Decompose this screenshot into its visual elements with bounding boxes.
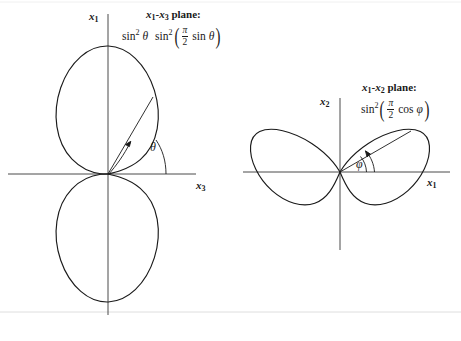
right-horizontal-axis-label: x1	[427, 177, 437, 190]
right-panel-formula: sin2(π2cosφ)	[361, 99, 431, 120]
left-radius-vector	[108, 97, 153, 174]
left-angle-arrow-arc	[109, 142, 131, 174]
close-paren-icon: )	[216, 27, 221, 47]
pi-over-two-fraction: π2	[387, 99, 394, 120]
radiation-pattern-figure: x1 x3 x1-x3 plane: sin2θsin2(π2sinθ) θ x…	[0, 0, 461, 341]
left-horizontal-axis-label: x3	[196, 180, 206, 193]
open-paren-icon: (	[174, 27, 179, 47]
left-lower-lobe	[56, 174, 158, 302]
left-vertical-axis-label: x1	[89, 11, 99, 24]
figure-canvas	[0, 0, 461, 341]
left-upper-lobe	[56, 46, 158, 174]
right-panel-group	[243, 98, 450, 250]
left-panel-formula: sin2θsin2(π2sinθ)	[122, 26, 222, 47]
left-panel-caption: x1-x3 plane:	[146, 9, 201, 22]
right-radius-vector	[340, 131, 411, 172]
close-paren-icon: )	[424, 100, 429, 120]
pi-over-two-fraction: π2	[182, 26, 189, 47]
left-theta-arc	[156, 140, 166, 174]
right-panel-caption: x1-x2 plane:	[362, 82, 417, 95]
formula-sin-2: sin	[155, 31, 168, 43]
left-theta-label: θ	[150, 141, 156, 153]
formula-sin-1: sin	[361, 104, 374, 116]
formula-sin-1: sin	[122, 31, 135, 43]
left-panel-group	[8, 14, 196, 315]
open-paren-icon: (	[380, 100, 385, 120]
right-lobe	[340, 129, 430, 205]
right-phi-label: φ	[356, 158, 363, 170]
left-lobe-right-panel	[250, 129, 340, 205]
right-vertical-axis-label: x2	[320, 96, 330, 109]
